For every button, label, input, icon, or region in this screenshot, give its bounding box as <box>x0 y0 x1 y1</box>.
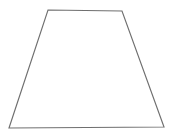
figure-canvas <box>0 0 175 139</box>
trapezoid-shape <box>9 10 164 128</box>
trapezoid-svg <box>0 0 175 139</box>
